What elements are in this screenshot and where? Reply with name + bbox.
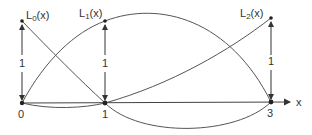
tick-label-0: 0 — [18, 108, 24, 120]
label-L0: L0(x) — [26, 9, 49, 23]
height-label: 1 — [19, 57, 25, 69]
height-marker-3: 1 — [268, 22, 274, 99]
height-marker-1: 1 — [102, 25, 108, 100]
height-label: 1 — [268, 55, 274, 67]
node-3 — [269, 100, 274, 105]
curve-L0 — [22, 21, 271, 128]
curve-L2 — [22, 18, 271, 108]
label-L2: L2(x) — [240, 7, 263, 21]
lagrange-diagram: x 0 1 3 1 1 1 L0(x) L1(x) L2(x) — [0, 0, 312, 135]
label-L1: L1(x) — [79, 7, 102, 21]
height-label: 1 — [102, 57, 108, 69]
peak-L0 — [20, 19, 24, 23]
height-marker-0: 1 — [19, 25, 25, 100]
peak-L1 — [103, 19, 107, 23]
peak-L2 — [269, 16, 273, 20]
tick-label-3: 3 — [267, 107, 273, 119]
node-0 — [20, 101, 24, 105]
node-1 — [103, 101, 108, 106]
tick-label-1: 1 — [102, 108, 108, 120]
x-axis-label: x — [296, 96, 302, 108]
